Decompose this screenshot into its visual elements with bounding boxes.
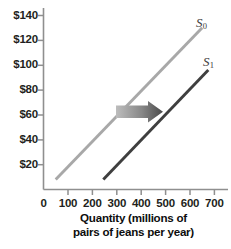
x-tick-label-400: 400 bbox=[129, 198, 153, 210]
curve-label-s0: S0 bbox=[196, 16, 207, 29]
x-tick-label-0: 0 bbox=[34, 198, 54, 210]
x-tick-label-100: 100 bbox=[56, 198, 80, 210]
curve-label-s0-subscript: 0 bbox=[203, 21, 207, 31]
x-tick-label-600: 600 bbox=[178, 198, 202, 210]
supply-shift-chart: $140 $120 $100 $80 $60 $40 $20 0 100 200… bbox=[0, 0, 231, 249]
x-tick-label-300: 300 bbox=[105, 198, 129, 210]
x-axis-title-line2: pairs of jeans per year) bbox=[36, 225, 231, 239]
x-tick-label-700: 700 bbox=[202, 198, 226, 210]
x-tick-label-500: 500 bbox=[154, 198, 178, 210]
curve-label-s0-text: S bbox=[196, 15, 203, 30]
x-axis-title-line1: Quantity (millions of bbox=[36, 211, 231, 225]
curve-label-s1-text: S bbox=[203, 54, 210, 69]
curve-label-s1-subscript: 1 bbox=[210, 60, 214, 70]
x-tick-label-200: 200 bbox=[80, 198, 104, 210]
curve-label-s1: S1 bbox=[203, 55, 214, 68]
x-axis-title: Quantity (millions of pairs of jeans per… bbox=[36, 211, 231, 239]
